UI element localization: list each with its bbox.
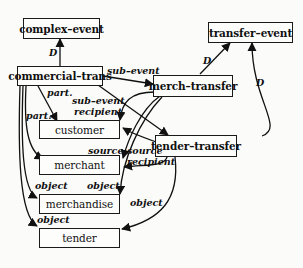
label-d-complex: D (49, 48, 57, 58)
node-label: tender (62, 232, 97, 244)
node-commercial-trans: commercial–trans (17, 66, 103, 86)
node-tender: tender (39, 228, 120, 248)
label-object-2: object (87, 181, 120, 191)
label-part-1: part. (47, 88, 73, 98)
node-label: complex–event (19, 23, 104, 35)
label-d-tender-transfer: D (256, 78, 264, 88)
label-recipient-1: recipient (74, 107, 122, 117)
node-complex-event: complex–event (23, 18, 100, 39)
semantic-network-diagram: complex–event transfer–event commercial–… (0, 0, 303, 268)
label-sub-event-2: sub–event (72, 96, 125, 106)
edge-object-tender-2 (122, 157, 176, 229)
label-d-merch-transfer: D (203, 56, 211, 66)
label-object-1: object (35, 181, 68, 191)
node-label: transfer–event (209, 27, 292, 39)
label-sub-event-1: sub–event (107, 66, 160, 76)
label-source-1: source (88, 146, 123, 156)
label-recipient-2: recipient (127, 157, 175, 167)
node-merch-transfer: merch–transfer (153, 75, 233, 97)
label-object-4: object (37, 215, 70, 225)
edge-d-tender-transfer (252, 43, 270, 136)
node-label: merch–transfer (149, 80, 238, 92)
node-label: tender–transfer (151, 140, 241, 152)
node-customer: customer (39, 120, 120, 139)
label-source-2: source (127, 146, 162, 156)
node-tender-transfer: tender–transfer (155, 135, 237, 157)
node-merchandise: merchandise (39, 194, 120, 214)
node-label: merchandise (46, 198, 113, 210)
label-part-2: part. (26, 111, 52, 121)
label-object-3: object (130, 198, 163, 208)
node-merchant: merchant (39, 155, 120, 175)
node-label: customer (55, 124, 104, 136)
node-transfer-event: transfer–event (208, 22, 293, 43)
node-label: merchant (54, 159, 104, 171)
node-label: commercial–trans (8, 70, 111, 82)
